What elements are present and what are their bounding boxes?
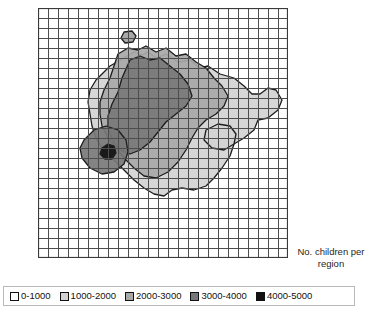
- choropleth-figure: No. children per region: [0, 0, 374, 285]
- legend-label: 3000-4000: [201, 291, 246, 301]
- legend-item: 4000-5000: [256, 291, 312, 301]
- legend-label: 4000-5000: [267, 291, 312, 301]
- legend-label: 2000-3000: [136, 291, 181, 301]
- legend-item: 3000-4000: [190, 291, 246, 301]
- legend-swatch: [125, 292, 134, 301]
- legend-item: 1000-2000: [60, 291, 116, 301]
- legend-swatch: [60, 292, 69, 301]
- contour-layers: [80, 31, 282, 196]
- legend-swatch: [256, 292, 265, 301]
- legend: 0-10001000-20002000-30003000-40004000-50…: [3, 286, 355, 306]
- map-caption: No. children per region: [290, 246, 372, 269]
- map-stage: [38, 8, 288, 258]
- legend-label: 1000-2000: [71, 291, 116, 301]
- legend-swatch: [190, 292, 199, 301]
- contour-outlier-patch: [121, 31, 136, 43]
- map-caption-line-1: No. children per: [297, 246, 364, 257]
- legend-item: 2000-3000: [125, 291, 181, 301]
- legend-label: 0-1000: [21, 291, 51, 301]
- contour-map: [38, 8, 288, 258]
- legend-swatch: [10, 292, 19, 301]
- legend-item: 0-1000: [10, 291, 51, 301]
- map-caption-line-2: region: [318, 258, 344, 269]
